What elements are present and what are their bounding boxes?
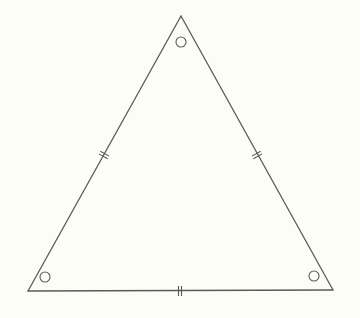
- diagram-canvas: [0, 0, 360, 318]
- triangle-diagram: [0, 0, 360, 318]
- background: [0, 0, 360, 318]
